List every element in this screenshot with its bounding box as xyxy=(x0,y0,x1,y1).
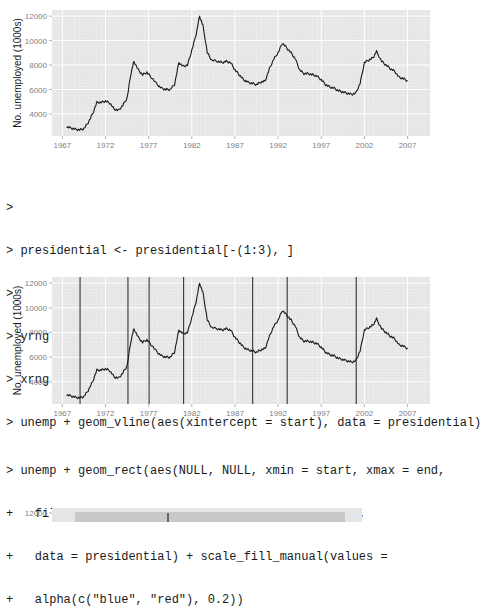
code-line: + alpha(c("blue", "red"), 0.2)) xyxy=(6,593,445,608)
y-tick-label: 10000 xyxy=(25,37,48,46)
x-tick-label: 2007 xyxy=(399,409,417,417)
x-tick-label: 2002 xyxy=(356,409,374,417)
party-rect xyxy=(75,512,345,522)
code-line: + data = presidential) + scale_fill_manu… xyxy=(6,550,445,565)
y-tick-label: 4000 xyxy=(29,378,47,387)
x-tick-label: 2007 xyxy=(399,141,417,150)
y-tick-label: 4000 xyxy=(29,110,47,119)
y-tick-label: 8000 xyxy=(29,328,47,337)
x-tick-label: 1972 xyxy=(97,409,115,417)
code-line: > presidential <- presidential[-(1:3), ] xyxy=(6,244,481,259)
chart-3-svg: 12000 xyxy=(0,500,465,522)
x-tick-label: 2002 xyxy=(356,141,374,150)
x-tick-label: 1987 xyxy=(226,141,244,150)
x-tick-label: 1997 xyxy=(312,409,330,417)
chart-1-svg: 1967197219771982198719921997200220074000… xyxy=(0,0,465,150)
x-tick-label: 1977 xyxy=(140,409,158,417)
x-tick-label: 1992 xyxy=(269,409,287,417)
unemployment-chart-2-vlines: 1967197219771982198719921997200220074000… xyxy=(0,267,465,417)
y-tick-label: 10000 xyxy=(25,304,48,313)
x-tick-label: 1972 xyxy=(97,141,115,150)
code-line: > unemp + geom_vline(aes(xintercept = st… xyxy=(6,416,481,431)
y-tick-label: 6000 xyxy=(29,353,47,362)
chart-2-svg: 1967197219771982198719921997200220074000… xyxy=(0,267,465,417)
x-tick-label: 1977 xyxy=(140,141,158,150)
y-tick-label: 12000 xyxy=(25,509,48,518)
x-tick-label: 1967 xyxy=(53,409,71,417)
x-tick-label: 1982 xyxy=(183,409,201,417)
x-tick-label: 1992 xyxy=(269,141,287,150)
y-tick-label: 6000 xyxy=(29,86,47,95)
y-axis-label: No. unemployed (1000s) xyxy=(12,18,23,128)
x-tick-label: 1967 xyxy=(53,141,71,150)
unemployment-chart-1: 1967197219771982198719921997200220074000… xyxy=(0,0,465,150)
y-tick-label: 12000 xyxy=(25,12,48,21)
code-block-2: > unemp + geom_rect(aes(NULL, NULL, xmin… xyxy=(6,436,445,610)
y-axis-label: No. unemployed (1000s) xyxy=(12,286,23,396)
y-tick-label: 12000 xyxy=(25,279,48,288)
x-tick-label: 1997 xyxy=(312,141,330,150)
unemployment-chart-3-partial: 12000 xyxy=(0,500,465,522)
y-tick-label: 8000 xyxy=(29,61,47,70)
code-line: > unemp + geom_rect(aes(NULL, NULL, xmin… xyxy=(6,464,445,479)
x-tick-label: 1982 xyxy=(183,141,201,150)
code-line: > xyxy=(6,201,481,216)
x-tick-label: 1987 xyxy=(226,409,244,417)
